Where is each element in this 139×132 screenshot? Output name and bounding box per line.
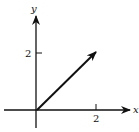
y-axis-label: y — [30, 3, 37, 14]
x-tick-label: 2 — [93, 113, 99, 124]
y-tick-label: 2 — [25, 48, 31, 59]
x-axis-label: x — [133, 104, 139, 115]
vector-diagram: y x 2 2 — [0, 0, 139, 132]
vector-arrow — [37, 52, 96, 110]
